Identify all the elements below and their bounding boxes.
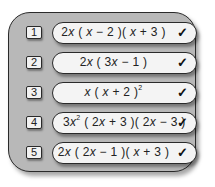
answer-pill: 2x ( 2x − 1 )( x + 3 ) ✓ [52,142,197,164]
row-number-badge: 4 [26,116,42,129]
row-number-badge: 5 [26,146,42,159]
row-number-badge: 1 [26,26,42,39]
answers-panel: 1 2x ( x − 2 )( x + 3 ) ✓ 2 2x ( 3x − 1 … [8,12,196,172]
factored-expression: 2x ( x − 2 )( x + 3 ) [53,23,174,42]
factored-expression: 2x ( 2x − 1 )( x + 3 ) [53,143,174,162]
row-number-badge: 2 [26,56,42,69]
check-icon: ✓ [177,143,188,162]
check-icon: ✓ [177,113,188,132]
check-icon: ✓ [177,83,188,102]
answer-row-5: 5 2x ( 2x − 1 )( x + 3 ) ✓ [17,142,197,164]
answer-pill: 3x2 ( 2x + 3 )( 2x − 3 ) ✓ [52,112,197,134]
answer-row-3: 3 x ( x + 2 )2 ✓ [17,82,197,104]
factored-expression: 2x ( 3x − 1 ) [53,53,174,72]
answer-pill: 2x ( x − 2 )( x + 3 ) ✓ [52,22,197,44]
check-icon: ✓ [177,23,188,42]
row-number-badge: 3 [26,86,42,99]
factored-expression: 3x2 ( 2x + 3 )( 2x − 3 ) [53,113,174,132]
factored-expression: x ( x + 2 )2 [53,83,174,102]
answer-pill: x ( x + 2 )2 ✓ [52,82,197,104]
answer-pill: 2x ( 3x − 1 ) ✓ [52,52,197,74]
answer-row-2: 2 2x ( 3x − 1 ) ✓ [17,52,197,74]
check-icon: ✓ [177,53,188,72]
answer-row-4: 4 3x2 ( 2x + 3 )( 2x − 3 ) ✓ [17,112,197,134]
answer-row-1: 1 2x ( x − 2 )( x + 3 ) ✓ [17,22,197,44]
